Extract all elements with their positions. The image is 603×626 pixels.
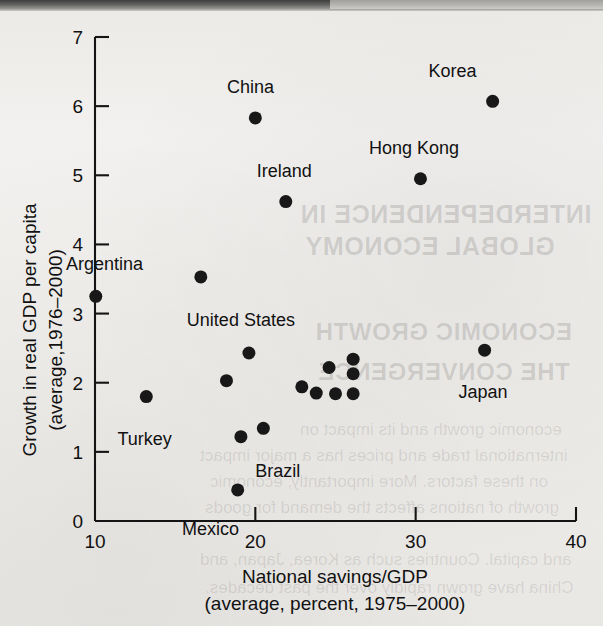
x-axis-title-line1: National savings/GDP <box>242 566 428 587</box>
x-tick-label: 30 <box>405 531 426 552</box>
y-axis-title-line1: Growth in real GDP per capita <box>19 203 40 457</box>
x-axis-title-line2: (average, percent, 1975–2000) <box>205 593 466 614</box>
data-point-label: Ireland <box>257 161 312 181</box>
data-point-marker <box>249 111 262 124</box>
x-axis-ticks: 10203040 <box>84 507 586 552</box>
data-point-marker <box>486 95 499 108</box>
data-point-marker <box>478 344 491 357</box>
y-tick-label: 0 <box>72 511 83 532</box>
x-tick-label: 20 <box>245 531 266 552</box>
data-point-label: Japan <box>458 382 507 402</box>
y-tick-label: 5 <box>72 165 83 186</box>
data-point-marker <box>279 195 292 208</box>
data-point-marker <box>242 346 255 359</box>
data-point-marker <box>231 483 244 496</box>
data-point-label: China <box>227 77 275 97</box>
data-point-marker <box>323 361 336 374</box>
data-point-marker <box>234 430 247 443</box>
data-point-label: Hong Kong <box>369 138 459 158</box>
data-point-label: United States <box>187 310 295 330</box>
x-tick-label: 40 <box>565 531 586 552</box>
data-point-marker <box>220 374 233 387</box>
y-tick-label: 6 <box>72 96 83 117</box>
data-points-layer: KoreaChinaHong KongIrelandArgentinaUnite… <box>66 61 507 539</box>
data-point-marker <box>310 387 323 400</box>
data-point-marker <box>414 172 427 185</box>
data-point-marker <box>347 367 360 380</box>
data-point-label: Argentina <box>66 254 144 274</box>
x-axis-title: National savings/GDP (average, percent, … <box>205 566 466 614</box>
data-point-label: Mexico <box>182 519 239 539</box>
data-point-marker <box>347 387 360 400</box>
y-tick-label: 7 <box>72 27 83 48</box>
data-point-label: Turkey <box>118 429 172 449</box>
data-point-marker <box>194 270 207 283</box>
y-tick-label: 4 <box>72 234 83 255</box>
x-tick-label: 10 <box>84 531 105 552</box>
y-axis-title-line2: (average,1976–2000) <box>45 249 66 431</box>
data-point-marker <box>347 353 360 366</box>
data-point-label: Korea <box>429 61 478 81</box>
data-point-marker <box>257 422 270 435</box>
y-tick-label: 1 <box>72 442 83 463</box>
y-axis-ticks: 01234567 <box>72 27 109 532</box>
data-point-label: Brazil <box>255 461 300 481</box>
scatter-chart: 01234567 10203040 KoreaChinaHong KongIre… <box>0 0 603 626</box>
data-point-marker <box>140 390 153 403</box>
y-tick-label: 3 <box>72 304 83 325</box>
data-point-marker <box>89 290 102 303</box>
y-tick-label: 2 <box>72 373 83 394</box>
data-point-marker <box>295 380 308 393</box>
data-point-marker <box>329 387 342 400</box>
y-axis-title: Growth in real GDP per capita (average,1… <box>19 203 66 457</box>
